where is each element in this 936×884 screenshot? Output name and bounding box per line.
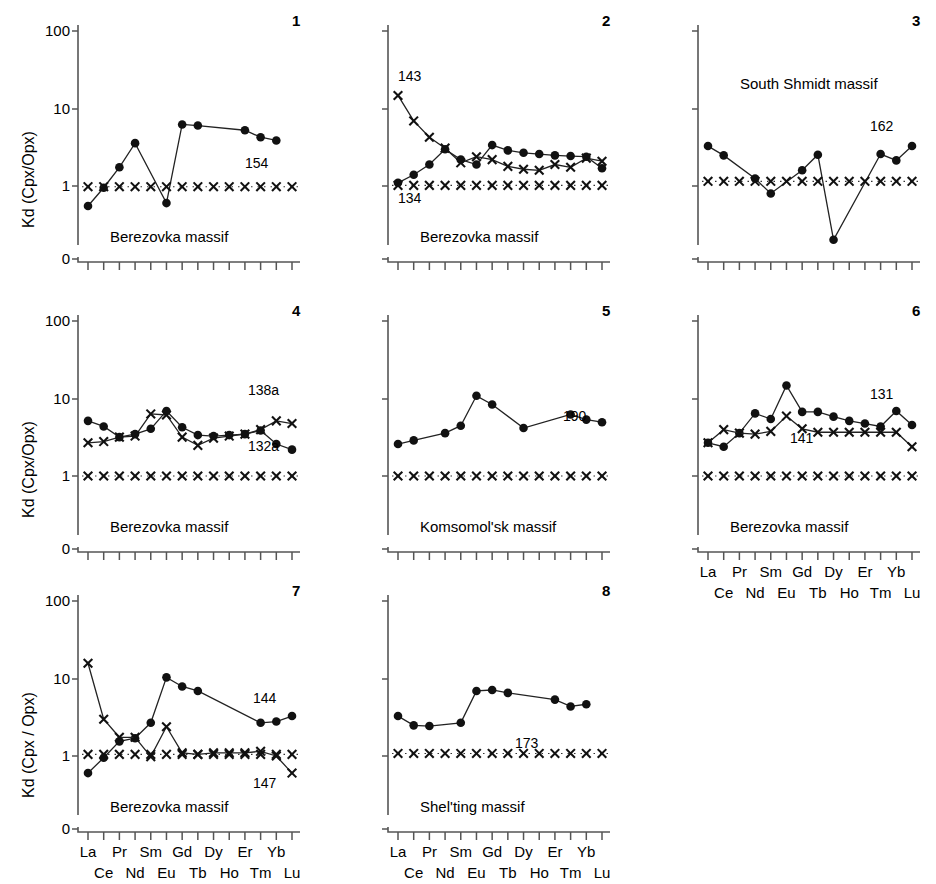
series-reference [392, 181, 608, 190]
x-label-Gd: Gd [792, 563, 812, 580]
series-173 [394, 686, 591, 731]
series-reference [82, 182, 298, 191]
plot-area-6 [620, 290, 932, 580]
x-label-Eu: Eu [467, 864, 485, 881]
plot-area-3 [620, 0, 932, 290]
panel-7: 7Kd (Cpx / Opx)1001010Berezovka massif14… [0, 570, 312, 860]
panel-5: 5Komsomol'sk massif190 [310, 290, 622, 580]
series-reference [82, 472, 298, 481]
x-label-Gd: Gd [482, 843, 502, 860]
series-label-141: 141 [790, 430, 813, 446]
series-reference [702, 177, 918, 186]
plot-area-4 [0, 290, 312, 580]
x-label-Nd: Nd [435, 864, 454, 881]
x-label-Ce: Ce [714, 584, 733, 601]
x-label-Yb: Yb [577, 843, 595, 860]
y-tick-0: 0 [28, 250, 70, 267]
x-axis-labels: LaPrSmGdDyErYbCeNdEuTbHoTmLu [620, 563, 932, 605]
x-label-Sm: Sm [140, 843, 163, 860]
panel-number-2: 2 [602, 12, 610, 29]
x-label-Dy: Dy [204, 843, 222, 860]
x-label-Pr: Pr [422, 843, 437, 860]
x-label-Ce: Ce [404, 864, 423, 881]
massif-label-8: Shel'ting massif [420, 798, 525, 815]
panel-3: 3South Shmidt massif162 [620, 0, 932, 290]
ree-kd-figure: 1Kd (Cpx/Opx)1001010Berezovka massif1542… [0, 0, 936, 884]
massif-label-1: Berezovka massif [110, 228, 228, 245]
panel-number-1: 1 [292, 12, 300, 29]
y-tick-1: 1 [28, 177, 70, 194]
x-label-Eu: Eu [157, 864, 175, 881]
x-label-Gd: Gd [172, 843, 192, 860]
series-147 [84, 659, 297, 777]
series-label-132a: 132a [248, 438, 279, 454]
x-label-Tm: Tm [250, 864, 272, 881]
x-label-Ce: Ce [94, 864, 113, 881]
massif-label-7: Berezovka massif [110, 798, 228, 815]
series-label-144: 144 [253, 690, 276, 706]
panel-2: 2Berezovka massif143134 [310, 0, 622, 290]
y-tick-1: 1 [28, 747, 70, 764]
x-label-Sm: Sm [760, 563, 783, 580]
plot-area-1 [0, 0, 312, 290]
x-axis-labels: LaPrSmGdDyErYbCeNdEuTbHoTmLu [310, 843, 622, 884]
x-axis-row-top: LaPrSmGdDyErYb [620, 563, 932, 584]
massif-label-2: Berezovka massif [420, 228, 538, 245]
massif-label-5: Komsomol'sk massif [420, 518, 556, 535]
series-143 [394, 91, 607, 174]
massif-label-6: Berezovka massif [730, 518, 848, 535]
series-label-147: 147 [253, 775, 276, 791]
x-axis-row-bottom: CeNdEuTbHoTmLu [620, 584, 932, 605]
series-162 [704, 142, 917, 244]
x-axis-row-bottom: CeNdEuTbHoTmLu [0, 864, 312, 884]
x-label-Er: Er [857, 563, 872, 580]
x-label-Dy: Dy [824, 563, 842, 580]
series-reference [392, 472, 608, 481]
y-tick-100: 100 [28, 22, 70, 39]
series-label-134: 134 [398, 190, 421, 206]
x-label-Lu: Lu [904, 584, 921, 601]
series-144 [84, 673, 297, 777]
x-label-Tb: Tb [809, 584, 827, 601]
y-tick-10: 10 [28, 390, 70, 407]
massif-label-4: Berezovka massif [110, 518, 228, 535]
series-label-131: 131 [870, 386, 893, 402]
x-label-Eu: Eu [777, 584, 795, 601]
plot-area-2 [310, 0, 622, 290]
panel-number-4: 4 [292, 302, 300, 319]
x-label-Nd: Nd [125, 864, 144, 881]
panel-number-8: 8 [602, 582, 610, 599]
x-label-Er: Er [237, 843, 252, 860]
x-label-Sm: Sm [450, 843, 473, 860]
x-label-Pr: Pr [112, 843, 127, 860]
y-tick-1: 1 [28, 467, 70, 484]
panel-number-7: 7 [292, 582, 300, 599]
series-label-138a: 138a [248, 382, 279, 398]
x-label-Yb: Yb [267, 843, 285, 860]
massif-label-3: South Shmidt massif [740, 75, 878, 92]
series-reference [392, 749, 608, 758]
x-axis-row-bottom: CeNdEuTbHoTmLu [310, 864, 622, 884]
x-label-La: La [80, 843, 97, 860]
series-reference [702, 472, 918, 481]
series-label-154: 154 [245, 155, 268, 171]
panel-6: 6Berezovka massif131141 [620, 290, 932, 580]
series-label-162: 162 [870, 118, 893, 134]
x-axis-row-top: LaPrSmGdDyErYb [310, 843, 622, 864]
x-label-Lu: Lu [594, 864, 611, 881]
y-tick-0: 0 [28, 820, 70, 837]
x-label-Er: Er [547, 843, 562, 860]
x-label-La: La [700, 563, 717, 580]
x-label-Ho: Ho [530, 864, 549, 881]
panel-number-6: 6 [912, 302, 920, 319]
plot-area-8 [310, 570, 622, 860]
y-tick-10: 10 [28, 100, 70, 117]
x-label-Lu: Lu [284, 864, 301, 881]
panel-number-5: 5 [602, 302, 610, 319]
x-label-Tb: Tb [499, 864, 517, 881]
panel-8: 8Shel'ting massif173 [310, 570, 622, 860]
x-label-Yb: Yb [887, 563, 905, 580]
x-axis-row-top: LaPrSmGdDyErYb [0, 843, 312, 864]
plot-area-5 [310, 290, 622, 580]
x-label-Tm: Tm [560, 864, 582, 881]
